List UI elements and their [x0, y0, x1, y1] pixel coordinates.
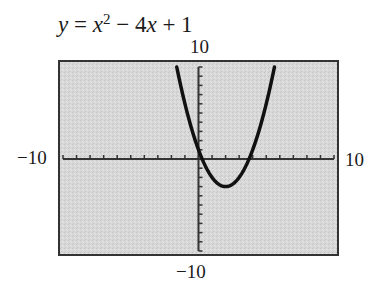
graph-screen [0, 0, 378, 291]
